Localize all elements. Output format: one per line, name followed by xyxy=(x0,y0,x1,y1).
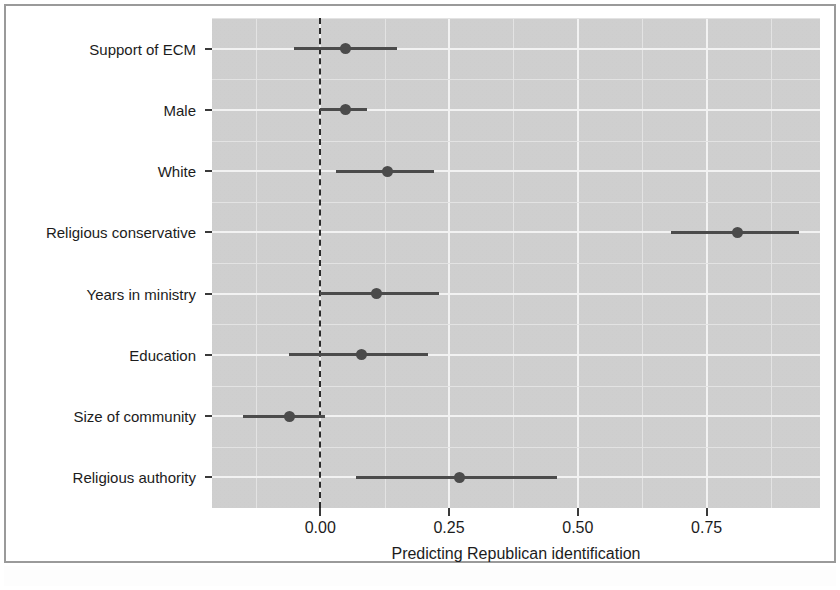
point-estimate-marker xyxy=(732,227,743,238)
point-estimate-marker xyxy=(340,43,351,54)
x-axis-tick-mark xyxy=(577,508,579,516)
y-axis-tick-mark xyxy=(205,48,212,50)
plot-panel xyxy=(212,18,820,508)
y-axis-tick-label: Male xyxy=(163,101,196,118)
y-axis-tick-label: Size of community xyxy=(73,408,196,425)
figure-border-right xyxy=(834,4,836,563)
x-axis-tick-label: 0.00 xyxy=(305,519,336,537)
point-estimate-marker xyxy=(356,349,367,360)
x-axis-tick-label: 0.25 xyxy=(433,519,464,537)
gridline-horizontal-minor xyxy=(212,386,820,387)
y-axis-tick-mark xyxy=(205,109,212,111)
x-axis-tick-label: 0.50 xyxy=(562,519,593,537)
zero-reference-line xyxy=(319,18,321,508)
y-axis-tick-mark xyxy=(205,476,212,478)
y-axis-tick-label: Religious authority xyxy=(73,469,196,486)
gridline-horizontal-major xyxy=(212,170,820,172)
x-axis-title: Predicting Republican identification xyxy=(212,545,820,563)
y-axis-tick-label: Education xyxy=(129,346,196,363)
figure-border-top xyxy=(4,4,836,6)
y-axis-tick-mark xyxy=(205,293,212,295)
gridline-horizontal-minor xyxy=(212,324,820,325)
gridline-horizontal-minor xyxy=(212,141,820,142)
point-estimate-marker xyxy=(340,104,351,115)
point-estimate-marker xyxy=(382,166,393,177)
gridline-horizontal-minor xyxy=(212,447,820,448)
y-axis-tick-mark xyxy=(205,170,212,172)
gridline-horizontal-major xyxy=(212,109,820,111)
gridline-horizontal-minor xyxy=(212,18,820,19)
x-axis-tick-mark xyxy=(448,508,450,516)
point-estimate-marker xyxy=(454,472,465,483)
x-axis-tick-mark xyxy=(319,508,321,516)
y-axis-tick-mark xyxy=(205,415,212,417)
y-axis-tick-label: Support of ECM xyxy=(89,40,196,57)
gridline-horizontal-minor xyxy=(212,202,820,203)
y-axis-tick-label: Religious conservative xyxy=(46,224,196,241)
coefficient-plot-figure: Support of ECMMaleWhiteReligious conserv… xyxy=(0,0,840,590)
y-axis-tick-mark xyxy=(205,231,212,233)
point-estimate-marker xyxy=(371,288,382,299)
y-axis-tick-label: White xyxy=(158,163,196,180)
y-axis-labels: Support of ECMMaleWhiteReligious conserv… xyxy=(0,18,196,508)
x-axis-tick-label: 0.75 xyxy=(691,519,722,537)
point-estimate-marker xyxy=(284,411,295,422)
gridline-horizontal-minor xyxy=(212,263,820,264)
gridline-horizontal-major xyxy=(212,293,820,295)
figure-footer-strip xyxy=(4,566,836,586)
gridline-horizontal-minor xyxy=(212,79,820,80)
x-axis-tick-mark xyxy=(706,508,708,516)
y-axis-tick-label: Years in ministry xyxy=(87,285,196,302)
y-axis-tick-mark xyxy=(205,354,212,356)
